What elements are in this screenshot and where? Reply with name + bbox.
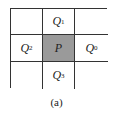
cell-top-right <box>75 9 108 35</box>
neighborhood-grid: Q1 Q2 P Q0 Q3 <box>10 8 107 88</box>
q3-label: Q <box>52 68 61 83</box>
q3-subscript: 3 <box>61 72 65 80</box>
q1-subscript: 1 <box>61 18 65 26</box>
q2-subscript: 2 <box>29 44 33 52</box>
cell-q3: Q3 <box>43 62 75 89</box>
cell-q0: Q0 <box>75 35 108 62</box>
cell-q1: Q1 <box>43 9 75 35</box>
q1-label: Q <box>52 14 61 29</box>
cell-top-left <box>11 9 43 35</box>
q0-label: Q <box>85 41 94 56</box>
p-label: P <box>55 41 62 56</box>
cell-q2: Q2 <box>11 35 43 62</box>
figure-caption: (a) <box>0 96 113 108</box>
q0-subscript: 0 <box>94 44 98 52</box>
q2-label: Q <box>20 41 29 56</box>
cell-bottom-left <box>11 62 43 89</box>
cell-bottom-right <box>75 62 108 89</box>
cell-p-center: P <box>43 35 75 62</box>
